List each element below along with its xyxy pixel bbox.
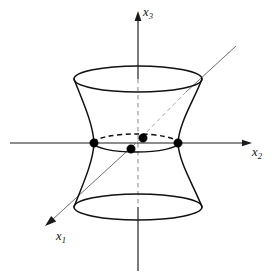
point-lower-middle <box>127 145 135 153</box>
axis-label-x3-base: x <box>143 5 149 19</box>
axis-label-x3-subscript: 3 <box>149 11 153 21</box>
figure-canvas: x3 x2 x1 <box>0 0 275 273</box>
axis-label-x2: x2 <box>252 146 262 159</box>
axis-x2-arrowhead <box>242 140 252 147</box>
axis-x3-arrowhead <box>135 11 142 21</box>
axis-label-x1: x1 <box>56 230 66 243</box>
surface-waist-front-arc <box>94 143 178 152</box>
axis-label-x2-subscript: 2 <box>258 151 262 161</box>
diagram-svg <box>0 0 275 273</box>
axis-x1-near-segment <box>52 143 136 220</box>
point-upper-middle <box>139 134 147 142</box>
surface-waist-back-arc <box>94 134 178 143</box>
axis-label-x1-subscript: 1 <box>62 235 66 245</box>
axis-label-x3: x3 <box>143 6 153 19</box>
point-left <box>90 139 98 147</box>
axis-label-x1-base: x <box>56 229 62 243</box>
point-right <box>174 139 182 147</box>
axis-label-x2-base: x <box>252 145 258 159</box>
